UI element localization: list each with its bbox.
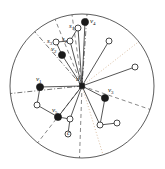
label-v4: v4 [90, 18, 96, 26]
node-n7[interactable] [114, 120, 120, 126]
node-n3[interactable] [34, 102, 40, 108]
ray-northeast-dotted [82, 42, 139, 86]
node-n2[interactable] [132, 64, 138, 70]
label-s3: s3 [47, 38, 52, 46]
node-n6[interactable] [97, 122, 103, 128]
node-s1[interactable] [75, 25, 81, 31]
label-s1: s1 [69, 23, 74, 31]
node-n1[interactable] [106, 38, 112, 44]
node-v1[interactable] [36, 83, 43, 90]
edge-u-n2 [82, 67, 135, 86]
node-v3[interactable] [101, 94, 108, 101]
label-v5: v5 [52, 107, 58, 115]
edge-u-n6 [82, 86, 100, 125]
node-v4[interactable] [81, 18, 88, 25]
edge-v3-n6 [100, 98, 105, 125]
node-v2[interactable] [58, 51, 65, 58]
node-n4[interactable] [67, 116, 73, 122]
node-center-u[interactable] [80, 84, 85, 89]
edge-u-v1 [40, 86, 82, 87]
figure-canvas: v1v2v3v4v5s1s2s3cu [0, 0, 165, 169]
label-v3: v3 [108, 87, 114, 95]
edge-u-n4 [70, 86, 82, 119]
node-s2[interactable] [67, 38, 73, 44]
label-s2: s2 [62, 36, 67, 44]
edge-u-v5 [58, 86, 82, 117]
ray-southeast-dotted [82, 86, 103, 155]
label-u: u [76, 76, 80, 83]
label-v2: v2 [51, 46, 57, 54]
diagram-svg [0, 0, 165, 169]
ray-south-dashed [79, 86, 82, 158]
label-v1: v1 [36, 76, 42, 84]
label-n5: c [67, 130, 70, 137]
edge-u-n1 [82, 41, 109, 86]
ray-east-dashed [82, 86, 150, 109]
